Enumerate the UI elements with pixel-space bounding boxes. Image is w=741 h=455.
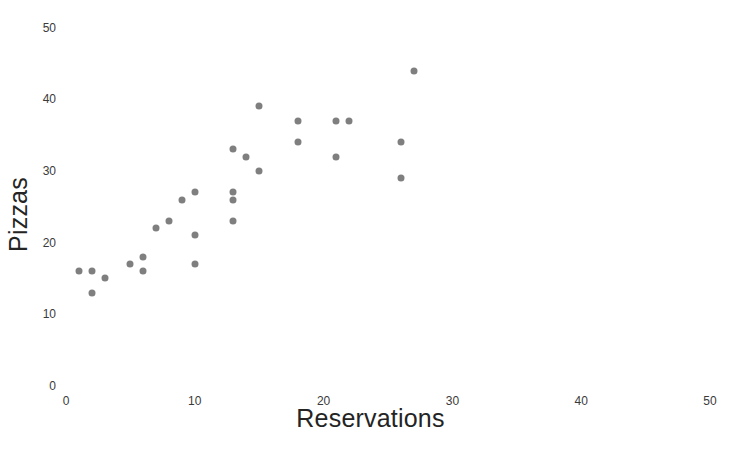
y-tick-label: 40 xyxy=(28,93,56,105)
data-point xyxy=(178,196,185,203)
data-point xyxy=(397,139,404,146)
y-tick-label: 10 xyxy=(28,308,56,320)
data-point xyxy=(397,175,404,182)
x-axis-title: Reservations xyxy=(0,404,741,433)
data-point xyxy=(256,103,263,110)
data-point xyxy=(191,261,198,268)
data-point xyxy=(230,146,237,153)
data-point xyxy=(333,117,340,124)
y-tick-label: 30 xyxy=(28,165,56,177)
data-point xyxy=(88,289,95,296)
data-point xyxy=(153,225,160,232)
y-tick-label: 50 xyxy=(28,22,56,34)
x-tick-label: 0 xyxy=(63,395,70,407)
data-point xyxy=(346,117,353,124)
data-point xyxy=(140,253,147,260)
plot-area xyxy=(0,0,741,455)
x-tick-label: 10 xyxy=(188,395,201,407)
data-point xyxy=(127,261,134,268)
data-point xyxy=(230,196,237,203)
data-point xyxy=(140,268,147,275)
x-tick-label: 40 xyxy=(575,395,588,407)
data-point xyxy=(101,275,108,282)
data-point xyxy=(294,139,301,146)
data-point xyxy=(243,153,250,160)
x-tick-label: 30 xyxy=(446,395,459,407)
data-point xyxy=(191,189,198,196)
data-point xyxy=(230,218,237,225)
x-tick-label: 50 xyxy=(703,395,716,407)
scatter-plot-figure: Pizzas Reservations 01020304050 01020304… xyxy=(0,0,741,455)
data-point xyxy=(294,117,301,124)
data-point xyxy=(75,268,82,275)
data-point xyxy=(256,167,263,174)
y-tick-label: 0 xyxy=(28,380,56,392)
y-tick-label: 20 xyxy=(28,237,56,249)
data-point xyxy=(88,268,95,275)
x-tick-label: 20 xyxy=(317,395,330,407)
data-point xyxy=(230,189,237,196)
data-point xyxy=(333,153,340,160)
data-point xyxy=(191,232,198,239)
data-point xyxy=(410,67,417,74)
data-point xyxy=(166,218,173,225)
